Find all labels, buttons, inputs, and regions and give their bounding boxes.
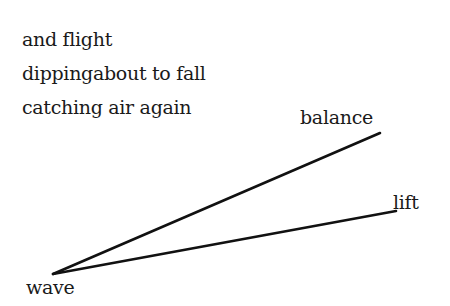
wave-label: wave (26, 276, 74, 298)
lift-label: lift (393, 191, 419, 213)
lift-ray (53, 211, 396, 274)
angle-diagram (0, 0, 450, 306)
balance-label: balance (300, 106, 373, 128)
balance-ray (53, 133, 380, 274)
